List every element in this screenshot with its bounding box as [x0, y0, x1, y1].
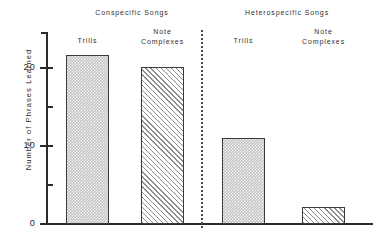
bar-conspecific-note-complexes — [141, 67, 184, 224]
bar-chart-figure: Conspecific Songs Heterospecific Songs N… — [0, 0, 373, 238]
bar-conspecific-trills — [66, 55, 109, 224]
y-tick-label-0: 0 — [12, 218, 36, 228]
group-header-conspecific: Conspecific Songs — [62, 9, 202, 16]
bar-label-heterospecific-note-complexes: Note Complexes — [294, 27, 353, 46]
bar-heterospecific-trills — [222, 138, 265, 224]
y-tick-major-20 — [40, 67, 53, 69]
bar-label-conspecific-note-complexes: Note Complexes — [133, 27, 192, 46]
y-tick-label-20: 20 — [12, 62, 36, 72]
y-axis-top-cap — [41, 32, 47, 34]
y-tick-major-0 — [40, 223, 53, 225]
y-tick-minor-15 — [46, 106, 53, 108]
group-divider-dotted-line — [201, 30, 203, 228]
y-tick-minor-5 — [46, 184, 53, 186]
y-axis-title: Number of Phrases Learned — [24, 30, 33, 190]
bar-heterospecific-note-complexes — [302, 207, 345, 224]
bar-label-conspecific-trills: Trills — [62, 36, 113, 46]
y-tick-label-10: 10 — [12, 140, 36, 150]
bar-label-heterospecific-trills: Trills — [218, 36, 269, 46]
group-header-heterospecific: Heterospecific Songs — [214, 9, 360, 16]
y-tick-major-10 — [40, 145, 53, 147]
y-axis-line — [46, 32, 48, 225]
